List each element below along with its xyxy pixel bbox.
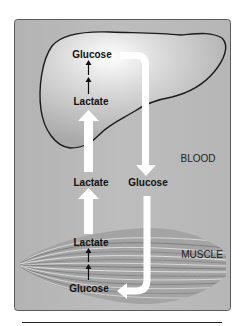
blood-lactate-label: Lactate bbox=[73, 177, 108, 188]
muscle-region-label: MUSCLE bbox=[181, 249, 223, 260]
liver-glucose-label: Glucose bbox=[72, 49, 112, 60]
blood-region-label: BLOOD bbox=[180, 153, 215, 164]
muscle-lactate-label: Lactate bbox=[73, 237, 108, 248]
liver-lactate-label: Lactate bbox=[73, 96, 108, 107]
blood-glucose-label: Glucose bbox=[128, 177, 168, 188]
cori-cycle-diagram: Glucose Lactate Lactate Glucose Lactate … bbox=[0, 0, 242, 326]
muscle-glucose-label: Glucose bbox=[69, 283, 109, 294]
